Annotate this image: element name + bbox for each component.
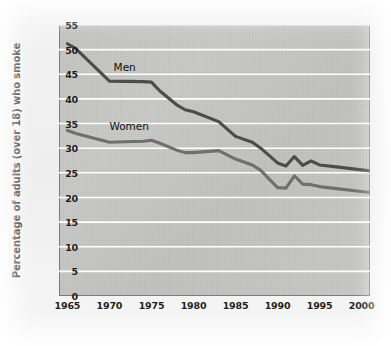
y-tick-label: 20	[65, 192, 78, 203]
series-label-women: Women	[109, 120, 149, 132]
y-tick-label: 35	[65, 118, 78, 129]
y-tick-label: 10	[65, 241, 78, 252]
x-tick-label: 1975	[139, 300, 165, 311]
y-tick-label: 30	[65, 143, 78, 154]
y-tick-label: 40	[65, 93, 78, 104]
y-tick-label: 5	[72, 266, 78, 277]
x-tick-label: 1985	[223, 300, 249, 311]
x-tick-label: 1995	[307, 300, 333, 311]
x-tick-label: 1980	[181, 300, 207, 311]
y-tick-label: 15	[65, 217, 78, 228]
y-axis-title: Percentage of adults (over 18) who smoke	[8, 25, 24, 296]
x-tick-label: 1990	[265, 300, 291, 311]
y-tick-label: 50	[65, 44, 78, 55]
x-tick-label: 1970	[97, 300, 123, 311]
x-tick-label: 2000	[349, 300, 375, 311]
series-inline-labels: Men Women	[59, 25, 370, 296]
plot-area: Men Women	[59, 25, 370, 296]
series-label-men: Men	[114, 61, 136, 73]
y-tick-label: 25	[65, 167, 78, 178]
x-tick-label: 1965	[55, 300, 81, 311]
y-tick-label: 55	[65, 20, 78, 31]
y-tick-label: 45	[65, 69, 78, 80]
chart-figure: Men Women 0510152025303540455055 1965197…	[0, 0, 391, 346]
